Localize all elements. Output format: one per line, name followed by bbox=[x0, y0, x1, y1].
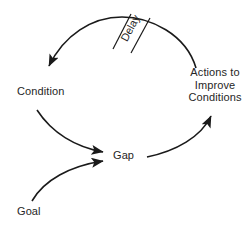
edge-goal-to-gap bbox=[32, 161, 103, 201]
node-label-condition: Condition bbox=[17, 85, 64, 98]
node-label-gap: Gap bbox=[113, 149, 134, 162]
edge-condition-to-gap bbox=[37, 110, 103, 152]
node-label-actions: Actions to Improve Conditions bbox=[183, 66, 247, 104]
node-label-actions-line3: Conditions bbox=[189, 91, 242, 103]
node-label-goal: Goal bbox=[17, 205, 41, 218]
node-label-actions-line1: Actions to bbox=[190, 66, 239, 78]
node-label-actions-line2: Improve bbox=[195, 79, 235, 91]
edge-gap-to-actions bbox=[147, 116, 211, 157]
causal-loop-diagram: Condition Actions to Improve Conditions … bbox=[0, 0, 250, 227]
